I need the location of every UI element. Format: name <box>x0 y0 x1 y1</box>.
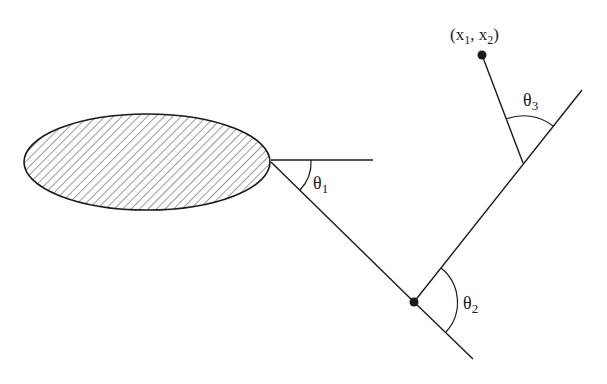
robot-arm-diagram: (x1, x2) θ1 θ2 θ3 <box>0 0 607 384</box>
theta3-label: θ3 <box>523 90 538 113</box>
hatched-base-ellipse <box>24 114 270 210</box>
link-2 <box>414 90 582 302</box>
theta3-arc <box>506 116 553 126</box>
link-3 <box>482 55 523 163</box>
theta1-label: θ1 <box>313 173 328 196</box>
end-effector-dot <box>478 51 487 60</box>
theta1-arc <box>300 160 311 190</box>
theta2-label: θ2 <box>463 293 478 316</box>
target-point-label: (x1, x2) <box>450 25 499 47</box>
link-1 <box>271 162 414 302</box>
theta2-arc <box>441 268 457 332</box>
elbow-joint-dot <box>410 298 419 307</box>
